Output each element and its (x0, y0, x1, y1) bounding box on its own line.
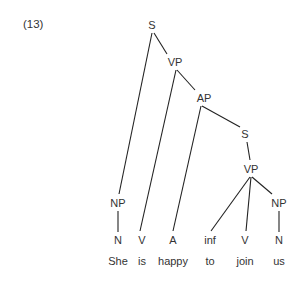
node-n1: N (114, 234, 122, 246)
word-to: to (205, 255, 214, 267)
node-vp2: VP (244, 163, 259, 175)
node-a: A (169, 234, 176, 246)
word-she: She (108, 255, 128, 267)
node-v1: V (138, 234, 145, 246)
node-n2: N (275, 234, 283, 246)
node-s1: S (148, 19, 155, 31)
edge-vp2-np2 (252, 177, 272, 194)
word-join: join (236, 255, 253, 267)
edge-ap-s2 (202, 106, 240, 127)
node-np1: NP (110, 197, 125, 209)
node-v2: V (241, 234, 248, 246)
edge-s2-vp2 (247, 142, 250, 160)
edge-s1-np1 (119, 33, 152, 194)
edge-vp1-ap (177, 70, 195, 90)
edge-s1-vp1 (154, 33, 167, 54)
word-is: is (138, 255, 146, 267)
node-ap: AP (197, 92, 212, 104)
edge-ap-a (173, 106, 201, 231)
node-s2: S (241, 128, 248, 140)
word-us: us (273, 255, 285, 267)
node-np2: NP (271, 197, 286, 209)
edge-vp2-inf (211, 177, 250, 231)
edge-vp2-v2 (246, 177, 251, 231)
syntax-tree-edges (0, 0, 301, 282)
word-happy: happy (158, 255, 188, 267)
edge-vp1-v1 (140, 70, 176, 231)
node-vp1: VP (168, 56, 183, 68)
node-inf: inf (204, 234, 216, 246)
